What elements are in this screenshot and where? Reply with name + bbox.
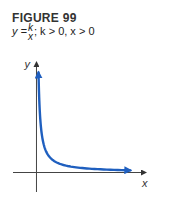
x-axis-label: x <box>141 177 148 189</box>
plot-area: x y <box>0 0 171 204</box>
y-axis-label: y <box>23 58 31 70</box>
curve-y-equals-k-over-x <box>39 73 131 171</box>
